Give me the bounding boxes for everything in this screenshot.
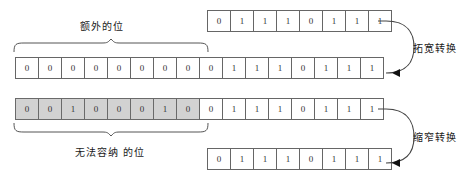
bit-cell: 1 [245, 57, 269, 79]
bit-cell: 1 [245, 98, 269, 120]
bit-cell: 0 [130, 98, 154, 120]
bit-cell: 1 [61, 98, 85, 120]
lost-bits-label: 无法容纳 的位 [72, 146, 148, 159]
extra-bits-label: 额外的位 [80, 20, 124, 33]
bit-cell: 1 [345, 10, 369, 32]
bit-cell: 1 [230, 148, 254, 170]
bit-cell: 1 [276, 10, 300, 32]
bit-cell: 1 [276, 148, 300, 170]
bit-cell: 1 [153, 98, 177, 120]
narrowing-source-row: 0010001001110111 [15, 98, 384, 120]
bit-cell: 1 [322, 10, 346, 32]
bit-cell: 0 [291, 57, 315, 79]
bit-cell: 0 [38, 98, 62, 120]
bit-cell: 0 [199, 57, 223, 79]
narrowing-result-row: 01110111 [207, 148, 392, 170]
bit-cell: 1 [322, 148, 346, 170]
bit-cell: 1 [253, 148, 277, 170]
bit-cell: 1 [314, 98, 338, 120]
bit-cell: 0 [176, 98, 200, 120]
bit-cell: 0 [107, 98, 131, 120]
bit-cell: 0 [299, 148, 323, 170]
bit-cell: 0 [107, 57, 131, 79]
widening-result-row: 0000000001110111 [15, 57, 384, 79]
bit-cell: 1 [268, 57, 292, 79]
lost-bits-brace [13, 122, 209, 136]
bit-cell: 1 [314, 57, 338, 79]
bit-cell: 1 [345, 148, 369, 170]
bit-cell: 1 [253, 10, 277, 32]
bit-cell: 0 [153, 57, 177, 79]
bit-cell: 0 [207, 10, 231, 32]
bit-cell: 1 [337, 98, 361, 120]
bit-cell: 0 [38, 57, 62, 79]
conversion-diagram: 01110111 0000000001110111 00100010011101… [0, 0, 471, 185]
bit-cell: 0 [130, 57, 154, 79]
bit-cell: 0 [199, 98, 223, 120]
bit-cell: 0 [299, 10, 323, 32]
bit-cell: 0 [84, 98, 108, 120]
bit-cell: 1 [268, 98, 292, 120]
bit-cell: 0 [15, 98, 39, 120]
bit-cell: 0 [61, 57, 85, 79]
widening-source-row: 01110111 [207, 10, 392, 32]
bit-cell: 0 [291, 98, 315, 120]
bit-cell: 1 [222, 98, 246, 120]
bit-cell: 1 [337, 57, 361, 79]
bit-cell: 0 [15, 57, 39, 79]
bit-cell: 0 [176, 57, 200, 79]
bit-cell: 1 [222, 57, 246, 79]
widening-conversion-label: 拓宽转换 [413, 42, 457, 55]
narrowing-conversion-label: 缩窄转换 [413, 131, 457, 144]
bit-cell: 0 [84, 57, 108, 79]
bit-cell: 1 [230, 10, 254, 32]
extra-bits-brace [13, 39, 209, 53]
bit-cell: 0 [207, 148, 231, 170]
